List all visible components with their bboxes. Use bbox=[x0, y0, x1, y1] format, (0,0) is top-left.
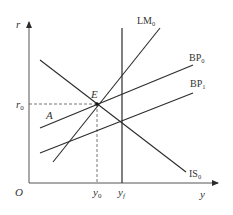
y0-label: y0 bbox=[92, 186, 102, 200]
bp1-curve bbox=[40, 93, 193, 153]
bp0-curve-label: BP0 bbox=[189, 52, 204, 64]
bp1-curve-label: BP1 bbox=[190, 78, 205, 90]
x-axis-label: y bbox=[199, 188, 205, 200]
yf-label: yf bbox=[117, 186, 126, 200]
y-axis-label: r bbox=[16, 18, 21, 30]
r0-label: r0 bbox=[16, 98, 24, 112]
is-lm-bp-diagram: r y O E A r0 y0 yf LM0 BP0 BP1 IS0 bbox=[0, 0, 233, 215]
equilibrium-point bbox=[95, 102, 99, 106]
lm-curve-label: LM0 bbox=[137, 15, 155, 27]
is-curve-label: IS0 bbox=[189, 168, 201, 180]
equilibrium-label: E bbox=[90, 88, 98, 100]
point-a-label: A bbox=[45, 109, 53, 121]
origin-label: O bbox=[15, 186, 23, 198]
